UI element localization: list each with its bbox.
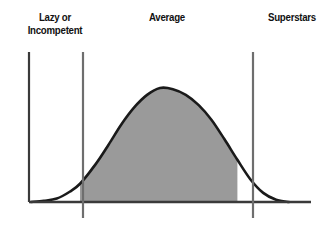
bell-curve-plot bbox=[0, 0, 336, 234]
bell-curve-figure: Lazy or Incompetent Average Superstars bbox=[0, 0, 336, 234]
curve-shaded-area bbox=[80, 88, 237, 202]
